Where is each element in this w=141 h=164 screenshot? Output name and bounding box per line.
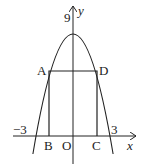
point-a-label: A xyxy=(37,63,47,78)
y-axis-label: y xyxy=(76,3,84,18)
pos-intercept-label: 3 xyxy=(111,122,118,137)
vertex-label: 9 xyxy=(64,10,71,25)
origin-label: O xyxy=(62,138,71,153)
parabola-diagram: y 9 A D −3 3 B O C x xyxy=(0,0,141,164)
point-b-label: B xyxy=(44,138,53,153)
neg-intercept-label: −3 xyxy=(13,122,27,137)
x-axis-label: x xyxy=(126,138,133,153)
point-c-label: C xyxy=(92,138,101,153)
point-d-label: D xyxy=(99,63,108,78)
